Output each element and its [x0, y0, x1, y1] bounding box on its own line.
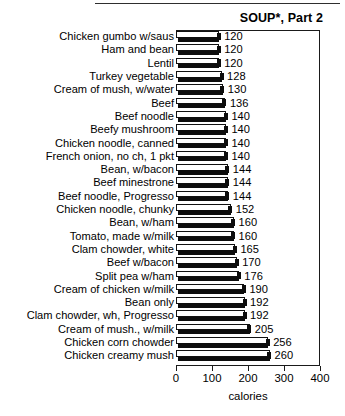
bar-row: French onion, no ch, 1 pkt140: [0, 150, 345, 163]
bar: [176, 191, 228, 202]
bar-end-tip: [217, 46, 221, 53]
bar-row: Lentil120: [0, 57, 345, 70]
bar-value-label: 144: [233, 163, 252, 176]
bar-shadow: [178, 91, 223, 95]
bar-row: Bean, w/bacon144: [0, 163, 345, 176]
bar: [176, 71, 222, 82]
bar-category-label: Beef noodle, Progresso: [58, 190, 174, 203]
bar-row: Beef noodle140: [0, 110, 345, 123]
bar-category-label: Chicken noodle, chunky: [56, 203, 174, 216]
bar-category-label: Chicken corn chowder: [64, 336, 174, 349]
bar-row: Beef w/bacon170: [0, 256, 345, 269]
x-axis-tick-mark: [284, 366, 285, 371]
bar-value-label: 130: [228, 83, 247, 96]
bar-shadow: [178, 303, 246, 307]
bar-row: Beef minestrone144: [0, 176, 345, 189]
bar-value-label: 152: [236, 203, 255, 216]
page-header-rule: [95, 3, 340, 4]
bar-row: Beef136: [0, 96, 345, 109]
bar: [176, 98, 225, 109]
x-axis-title: calories: [228, 390, 267, 402]
bar-value-label: 160: [239, 230, 258, 243]
bar-shadow: [178, 317, 246, 321]
bar: [176, 124, 226, 135]
bar-end-tip: [220, 86, 224, 93]
bar-shadow: [178, 51, 220, 55]
bar-shadow: [178, 170, 228, 174]
x-axis-tick-label: 300: [274, 372, 293, 385]
bar: [176, 204, 231, 215]
x-axis-tick-label: 200: [238, 372, 257, 385]
bar-row: Cream of mush., w/milk205: [0, 323, 345, 336]
bar-category-label: Tomato, made w/milk: [70, 230, 174, 243]
bar-shadow: [178, 37, 220, 41]
bar-end-tip: [247, 325, 251, 332]
bar-category-label: Cream of mush, w/water: [54, 83, 174, 96]
bar-value-label: 128: [227, 70, 246, 83]
bar-category-label: Turkey vegetable: [89, 70, 174, 83]
bar-rows-container: Chicken gumbo w/saus120Ham and bean120Le…: [0, 30, 345, 362]
bar-shadow: [178, 277, 240, 281]
bar-value-label: 205: [255, 323, 274, 336]
bar-row: Chicken gumbo w/saus120: [0, 30, 345, 43]
bar: [176, 310, 245, 321]
bar: [176, 257, 237, 268]
bar: [176, 284, 244, 295]
bar: [176, 177, 228, 188]
bar-row: Chicken noodle, chunky152: [0, 203, 345, 216]
bar-category-label: French onion, no ch, 1 pkt: [46, 150, 174, 163]
bar-category-label: Split pea w/ham: [95, 270, 174, 283]
bar-category-label: Bean, w/bacon: [101, 163, 174, 176]
bar: [176, 138, 226, 149]
bar-category-label: Beef noodle: [115, 110, 174, 123]
bar: [176, 31, 219, 42]
bar-end-tip: [220, 73, 224, 80]
bar: [176, 297, 245, 308]
bar-category-label: Bean, w/ham: [109, 216, 174, 229]
bar-shadow: [178, 237, 234, 241]
bar-value-label: 170: [242, 256, 261, 269]
bar-row: Chicken noodle, canned140: [0, 136, 345, 149]
bar-value-label: 140: [231, 110, 250, 123]
bar-category-label: Clam chowder, wh, Progresso: [27, 309, 174, 322]
bar: [176, 84, 223, 95]
bar-shadow: [178, 330, 250, 334]
bar-end-tip: [225, 179, 229, 186]
bar-row: Tomato, made w/milk160: [0, 229, 345, 242]
bar-value-label: 160: [239, 216, 258, 229]
bar-end-tip: [267, 352, 271, 359]
bar: [176, 337, 268, 348]
chart-title: SOUP*, Part 2: [240, 11, 323, 25]
bar-end-tip: [235, 259, 239, 266]
bar-end-tip: [224, 126, 228, 133]
bar: [176, 350, 270, 361]
bar-row: Bean only192: [0, 296, 345, 309]
x-axis: calories 0100200300400: [176, 366, 320, 416]
bar-shadow: [178, 104, 225, 108]
bar-row: Chicken creamy mush260: [0, 349, 345, 362]
bar-row: Cream of mush, w/water130: [0, 83, 345, 96]
bar-value-label: 144: [233, 176, 252, 189]
bar-shadow: [178, 77, 223, 81]
bar: [176, 217, 234, 228]
bar: [176, 324, 250, 335]
bar-category-label: Lentil: [147, 57, 174, 70]
bar-shadow: [178, 357, 270, 361]
x-axis-tick-mark: [176, 366, 177, 371]
bar: [176, 111, 226, 122]
bar-value-label: 120: [224, 43, 243, 56]
bar: [176, 244, 235, 255]
bar-category-label: Beef minestrone: [93, 176, 174, 189]
bar-value-label: 192: [250, 296, 269, 309]
bar-end-tip: [225, 192, 229, 199]
bar-row: Cream of chicken w/milk190: [0, 283, 345, 296]
bar-shadow: [178, 184, 228, 188]
x-axis-tick-label: 100: [202, 372, 221, 385]
bar-category-label: Beef w/bacon: [107, 256, 174, 269]
x-axis-tick-label: 400: [310, 372, 329, 385]
bar-shadow: [178, 117, 227, 121]
bar-category-label: Chicken noodle, canned: [55, 137, 174, 150]
bar-value-label: 140: [231, 150, 250, 163]
bar-row: Ham and bean120: [0, 43, 345, 56]
bar-shadow: [178, 250, 236, 254]
